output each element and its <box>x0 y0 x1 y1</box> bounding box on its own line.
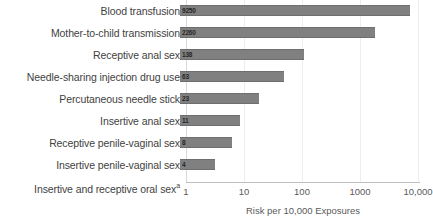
category-label: Insertive anal sex <box>0 116 180 127</box>
bar <box>180 93 259 104</box>
plot-area: Blood transfusion 9250 Mother-to-child t… <box>0 0 433 182</box>
category-label-text: Needle-sharing injection drug use <box>27 71 180 83</box>
bar-track: 2260 <box>180 22 433 44</box>
category-label-text: Blood transfusion <box>101 5 180 17</box>
bar-value-label: 138 <box>182 49 192 60</box>
bar-value-label: 23 <box>182 93 189 104</box>
x-axis-line <box>186 182 420 183</box>
category-label: Needle-sharing injection drug use <box>0 72 180 83</box>
bar-value-label: 8 <box>182 137 185 148</box>
bar-track: 4 <box>180 154 433 176</box>
category-label: Blood transfusion <box>0 6 180 17</box>
bar <box>180 137 232 148</box>
bar-row: Needle-sharing injection drug use 63 <box>0 66 433 88</box>
bar <box>180 71 284 82</box>
category-label-text: Insertive penile-vaginal sex <box>56 159 180 171</box>
bar-value-label: 63 <box>182 71 189 82</box>
bar-track: 9250 <box>180 0 433 22</box>
bar-row: Blood transfusion 9250 <box>0 0 433 22</box>
bar <box>180 115 240 126</box>
x-tick-label: 10,000 <box>403 186 432 197</box>
category-label: Receptive penile-vaginal sex <box>0 138 180 149</box>
bar-track: 11 <box>180 110 433 132</box>
bar-value-label: 2260 <box>182 27 196 38</box>
x-tick-label: 100 <box>294 186 310 197</box>
bar-row: Insertive anal sex 11 <box>0 110 433 132</box>
category-label: Insertive penile-vaginal sex <box>0 160 180 171</box>
bar <box>180 27 375 38</box>
bar-row: Mother-to-child transmission 2260 <box>0 22 433 44</box>
bar <box>180 5 410 16</box>
x-axis-title: Risk per 10,000 Exposures <box>186 205 420 216</box>
bar-track: 8 <box>180 132 433 154</box>
category-label-text: Percutaneous needle stick <box>59 93 180 105</box>
bar-row: Insertive penile-vaginal sex 4 <box>0 154 433 176</box>
category-label: Mother-to-child transmission <box>0 28 180 39</box>
x-tick-label: 1 <box>183 186 188 197</box>
bar-value-label: 9250 <box>182 5 196 16</box>
bar-value-label: 11 <box>182 115 188 126</box>
x-tick-label: 10 <box>239 186 250 197</box>
bar-track: 63 <box>180 66 433 88</box>
bar-value-label: 4 <box>182 159 185 170</box>
bar-row: Receptive anal sex 138 <box>0 44 433 66</box>
category-label-text: Receptive anal sex <box>93 49 180 61</box>
category-label-text: Insertive anal sex <box>100 115 180 127</box>
bar-track: 23 <box>180 88 433 110</box>
x-tick-label: 1000 <box>349 186 370 197</box>
hiv-transmission-risk-bar-chart: Blood transfusion 9250 Mother-to-child t… <box>0 0 433 222</box>
category-label-text: Receptive penile-vaginal sex <box>49 137 180 149</box>
bar-row: Percutaneous needle stick 23 <box>0 88 433 110</box>
bar-row: Receptive penile-vaginal sex 8 <box>0 132 433 154</box>
bar <box>180 49 304 60</box>
bar-track: 138 <box>180 44 433 66</box>
category-label-text: Mother-to-child transmission <box>51 27 180 39</box>
category-label: Percutaneous needle stick <box>0 94 180 105</box>
category-label: Receptive anal sex <box>0 50 180 61</box>
category-label: Insertive and receptive oral sexa <box>0 180 180 195</box>
category-label-text: Insertive and receptive oral sex <box>34 182 176 194</box>
